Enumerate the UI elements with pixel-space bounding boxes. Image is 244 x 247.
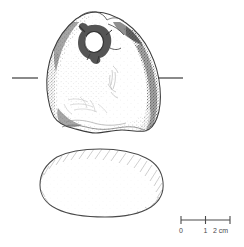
elevation-view [12, 8, 183, 138]
body-shading [40, 8, 170, 138]
scale-bar: 0 1 2 cm [179, 216, 230, 234]
figure-canvas: 0 1 2 cm [0, 0, 244, 247]
scale-label-0: 0 [179, 227, 183, 234]
scale-label-2cm: 2 cm [213, 227, 228, 234]
section-interior [38, 146, 168, 223]
cross-section-view [38, 146, 168, 223]
illustration-svg: 0 1 2 cm [0, 0, 244, 247]
scale-label-1: 1 [204, 227, 208, 234]
